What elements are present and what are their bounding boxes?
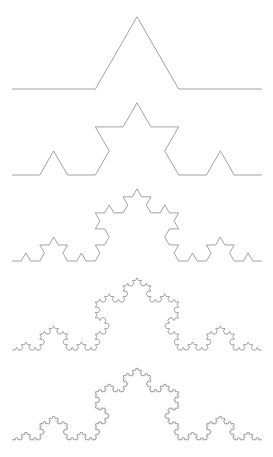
koch-curve-iteration-3 xyxy=(12,189,262,261)
koch-curve-iteration-2 xyxy=(12,103,262,175)
koch-curve-canvas xyxy=(0,0,273,457)
koch-curve-figure xyxy=(0,0,273,457)
koch-curve-iteration-4 xyxy=(12,278,262,350)
koch-curve-iteration-1 xyxy=(12,17,262,89)
koch-curve-layer xyxy=(12,17,262,440)
koch-curve-iteration-5 xyxy=(12,368,262,440)
